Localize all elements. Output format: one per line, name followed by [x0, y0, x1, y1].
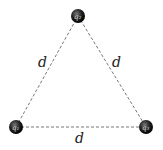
charge-q2: q₂: [71, 9, 85, 23]
triangle-diagram: d d d q₂ q₁ q₃: [0, 0, 163, 150]
charge-label-q3: q₃: [142, 124, 149, 132]
side-label-bottom: d: [75, 130, 84, 146]
charge-q3: q₃: [139, 120, 153, 134]
charge-q1: q₁: [9, 120, 23, 134]
side-label-left: d: [38, 54, 47, 70]
charge-label-q1: q₁: [12, 124, 19, 132]
charge-label-q2: q₂: [74, 13, 81, 21]
side-q2-q3: [78, 16, 146, 127]
side-q1-q2: [16, 16, 78, 127]
side-label-right: d: [112, 54, 121, 70]
